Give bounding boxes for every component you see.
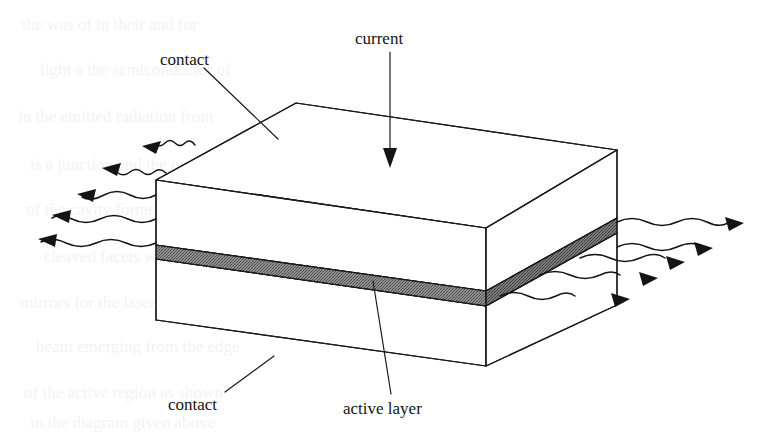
laser-slab [156, 103, 617, 366]
label-contact-bottom: contact [168, 395, 217, 414]
diagram-root: the was of in their and for light a the … [0, 0, 768, 436]
svg-text:the was of in their and: the was of in their and for [22, 15, 198, 34]
contact-bottom-leader [225, 356, 274, 392]
current-arrow [383, 52, 397, 168]
left-beam-5 [41, 239, 156, 246]
right-beam-arrowheads [611, 217, 744, 307]
svg-text:in the emitted radiation f: in the emitted radiation from [18, 107, 213, 126]
label-current: current [355, 29, 403, 48]
label-active-layer: active layer [343, 399, 422, 418]
laser-diode-diagram: the was of in their and for light a the … [0, 0, 768, 436]
svg-text:beam emerging from the edg: beam emerging from the edge [36, 337, 240, 356]
left-beam-1 [156, 141, 195, 146]
svg-text:in the diagram given above: in the diagram given above [30, 413, 215, 432]
right-beam-2 [617, 244, 705, 251]
label-contact-top: contact [160, 50, 209, 69]
right-beam-1 [617, 219, 728, 226]
contact-top-leader [204, 68, 278, 139]
